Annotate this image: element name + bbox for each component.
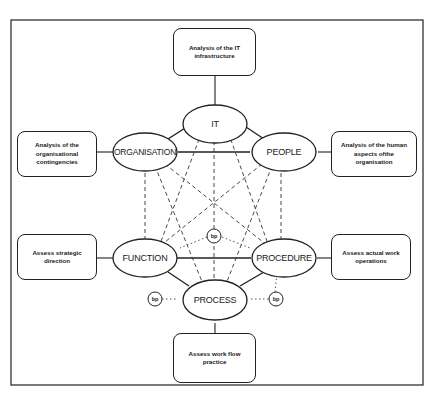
- label-organisation: ORGANISATION: [114, 147, 176, 157]
- procedure-assess-box: Assess actual work operations: [331, 234, 411, 280]
- organisation-analysis-box: Analysis of the organisational contingen…: [17, 131, 97, 177]
- bp-label-left: bp: [152, 296, 159, 302]
- bp-label-center: bp: [211, 233, 218, 239]
- people-analysis-text: Analysis of the human aspects ofthe orga…: [336, 141, 412, 166]
- procedure-assess-text: Assess actual work operations: [336, 249, 406, 266]
- label-it: IT: [211, 119, 219, 129]
- process-assess-text: Assess work flow practice: [178, 350, 251, 367]
- organisation-analysis-text: Analysis of the organisational contingen…: [22, 141, 92, 166]
- function-assess-text: Assess strategic direction: [22, 249, 92, 266]
- function-assess-box: Assess strategic direction: [17, 234, 97, 280]
- label-process: PROCESS: [194, 295, 237, 305]
- people-analysis-box: Analysis of the human aspects ofthe orga…: [331, 131, 417, 177]
- label-procedure: PROCEDURE: [256, 253, 312, 263]
- label-function: FUNCTION: [123, 253, 168, 263]
- it-analysis-box: Analysis of the IT infrastructure: [173, 28, 256, 76]
- process-assess-box: Assess work flow practice: [173, 333, 256, 383]
- concept-ellipses: [113, 105, 316, 320]
- it-analysis-text: Analysis of the IT infrastructure: [178, 44, 251, 61]
- bp-label-right: bp: [273, 296, 280, 302]
- label-people: PEOPLE: [267, 147, 302, 157]
